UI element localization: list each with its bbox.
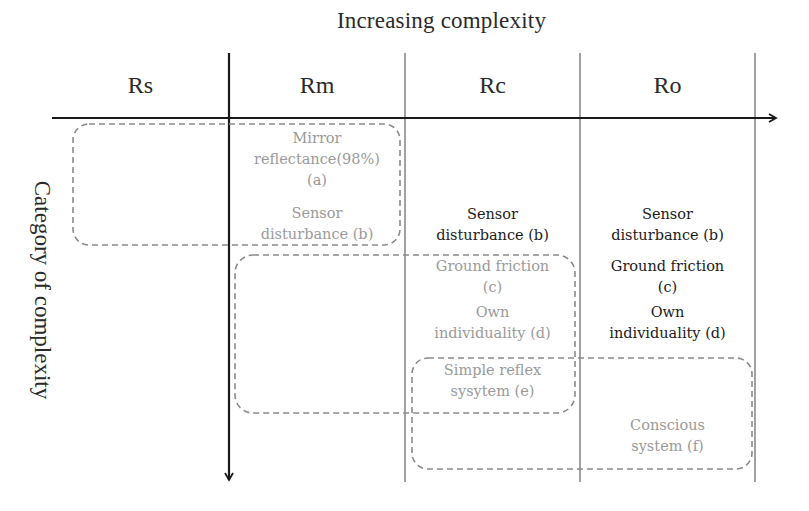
cell-ro-conscious-system: Conscious system (f): [580, 415, 755, 457]
cell-ro-own-individuality: Own individuality (d): [580, 302, 755, 344]
cell-rc-sensor-disturbance: Sensor disturbance (b): [405, 204, 580, 246]
text-line: disturbance (b): [405, 225, 580, 246]
cell-rm-sensor-disturbance: Sensor disturbance (b): [229, 203, 405, 245]
text-line: Sensor: [580, 204, 755, 225]
text-line: Own: [405, 302, 580, 323]
text-line: system (f): [580, 436, 755, 457]
cell-rc-ground-friction: Ground friction (c): [405, 256, 580, 298]
text-line: disturbance (b): [229, 224, 405, 245]
column-header-rc: Rc: [405, 72, 580, 99]
diagram-title: Increasing complexity: [0, 8, 809, 34]
text-line: Mirror: [229, 128, 405, 149]
text-line: Sensor: [405, 204, 580, 225]
text-line: individuality (d): [580, 323, 755, 344]
cell-rc-simple-reflex-system: Simple reflex sysytem (e): [405, 360, 580, 402]
text-line: sysytem (e): [405, 381, 580, 402]
text-line: (c): [405, 277, 580, 298]
text-line: Ground friction: [405, 256, 580, 277]
column-header-rm: Rm: [229, 72, 405, 99]
text-line: disturbance (b): [580, 225, 755, 246]
text-line: Sensor: [229, 203, 405, 224]
text-line: (a): [229, 170, 405, 191]
column-header-rs: Rs: [52, 72, 229, 99]
cell-ro-ground-friction: Ground friction (c): [580, 256, 755, 298]
cell-rc-own-individuality: Own individuality (d): [405, 302, 580, 344]
column-header-ro: Ro: [580, 72, 755, 99]
text-line: Own: [580, 302, 755, 323]
cell-rm-mirror-reflectance: Mirror reflectance(98%) (a): [229, 128, 405, 191]
text-line: Ground friction: [580, 256, 755, 277]
y-axis-label: Category of complexity: [29, 181, 55, 399]
text-line: reflectance(98%): [229, 149, 405, 170]
text-line: Simple reflex: [405, 360, 580, 381]
text-line: individuality (d): [405, 323, 580, 344]
text-line: (c): [580, 277, 755, 298]
text-line: Conscious: [580, 415, 755, 436]
cell-ro-sensor-disturbance: Sensor disturbance (b): [580, 204, 755, 246]
